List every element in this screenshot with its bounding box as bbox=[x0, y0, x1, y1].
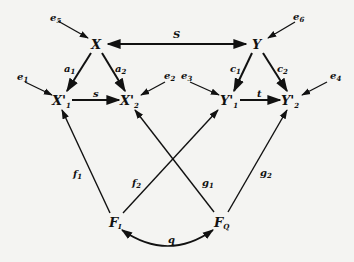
error-e2-arrow bbox=[141, 82, 165, 95]
edge-f1-label: f1 bbox=[72, 168, 82, 181]
node-x1: X'1 bbox=[51, 93, 71, 110]
edge-g2-line bbox=[228, 110, 287, 212]
node-fq: FQ bbox=[213, 215, 229, 231]
path-diagram: X Y X'1 X'2 Y'1 Y'2 FI FQ e5 e6 e1 e2 e3… bbox=[0, 0, 354, 262]
edge-c1-label: c1 bbox=[230, 63, 241, 76]
edge-f2-line bbox=[123, 110, 218, 213]
diagram-svg: X Y X'1 X'2 Y'1 Y'2 FI FQ e5 e6 e1 e2 e3… bbox=[0, 0, 354, 262]
edge-t-label: t bbox=[257, 88, 262, 99]
edge-s-small-label: s bbox=[93, 88, 99, 99]
error-e4-label: e4 bbox=[330, 70, 341, 83]
error-e3-arrow bbox=[190, 82, 219, 95]
error-e5-label: e5 bbox=[50, 12, 61, 25]
error-e5-arrow bbox=[58, 21, 88, 38]
edge-g1-line bbox=[135, 110, 214, 212]
edge-c2-label: c2 bbox=[277, 63, 288, 76]
node-y1: Y'1 bbox=[220, 93, 238, 110]
error-e6-arrow bbox=[268, 22, 295, 38]
node-fi: FI bbox=[108, 215, 122, 231]
edge-g2-label: g2 bbox=[260, 167, 272, 180]
error-e1-arrow bbox=[25, 82, 52, 95]
error-e2-label: e2 bbox=[164, 70, 175, 83]
error-e1-label: e1 bbox=[17, 71, 28, 84]
edge-a2-label: a2 bbox=[115, 63, 126, 76]
node-y2: Y'2 bbox=[281, 93, 299, 110]
edge-s-label: S bbox=[173, 29, 180, 40]
node-y: Y bbox=[252, 37, 263, 52]
edge-f2-label: f2 bbox=[131, 177, 141, 190]
error-e4-arrow bbox=[302, 82, 327, 95]
node-x2: X'2 bbox=[119, 93, 139, 110]
node-x: X bbox=[90, 37, 102, 52]
error-e3-label: e3 bbox=[181, 70, 192, 83]
edge-g1-label: g1 bbox=[202, 177, 214, 190]
edge-q-label: q bbox=[168, 234, 175, 245]
edge-f1-line bbox=[62, 110, 110, 213]
edge-a1-label: a1 bbox=[64, 63, 75, 76]
